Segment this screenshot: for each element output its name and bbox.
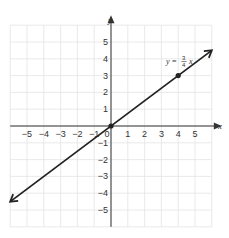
data-point xyxy=(108,123,113,128)
y-tick-label: 1 xyxy=(103,104,108,114)
axes xyxy=(10,15,222,227)
x-tick-label: 2 xyxy=(142,129,147,139)
y-tick-label: 4 xyxy=(103,54,108,64)
y-tick-label: 2 xyxy=(103,87,108,97)
x-tick-label: −5 xyxy=(22,129,32,139)
x-tick-label: 5 xyxy=(192,129,197,139)
coordinate-plane: −5−4−3−2−101234554321−1−2−3−4−5 x y y = … xyxy=(0,0,229,238)
equation-annotation: y = 3 4 x xyxy=(165,55,193,68)
x-tick-label: 3 xyxy=(159,129,164,139)
equation-variable: x xyxy=(188,57,193,66)
y-tick-label: −5 xyxy=(98,205,108,215)
y-tick-label: 3 xyxy=(103,71,108,81)
x-axis-label: x xyxy=(217,121,222,131)
y-tick-label: −3 xyxy=(98,171,108,181)
x-tick-label: −3 xyxy=(55,129,65,139)
x-tick-label: −2 xyxy=(72,129,82,139)
equation-numerator: 3 xyxy=(182,55,186,61)
y-tick-label: −2 xyxy=(98,155,108,165)
x-tick-label: 1 xyxy=(125,129,130,139)
y-tick-label: −4 xyxy=(98,188,108,198)
y-axis-label: y xyxy=(107,15,112,25)
x-tick-label: −4 xyxy=(39,129,49,139)
y-tick-label: −1 xyxy=(98,138,108,148)
equation-denominator: 4 xyxy=(182,62,186,68)
x-tick-label: 4 xyxy=(176,129,181,139)
y-tick-label: 5 xyxy=(103,37,108,47)
equation-prefix: y = xyxy=(165,57,177,66)
data-point xyxy=(176,73,181,78)
